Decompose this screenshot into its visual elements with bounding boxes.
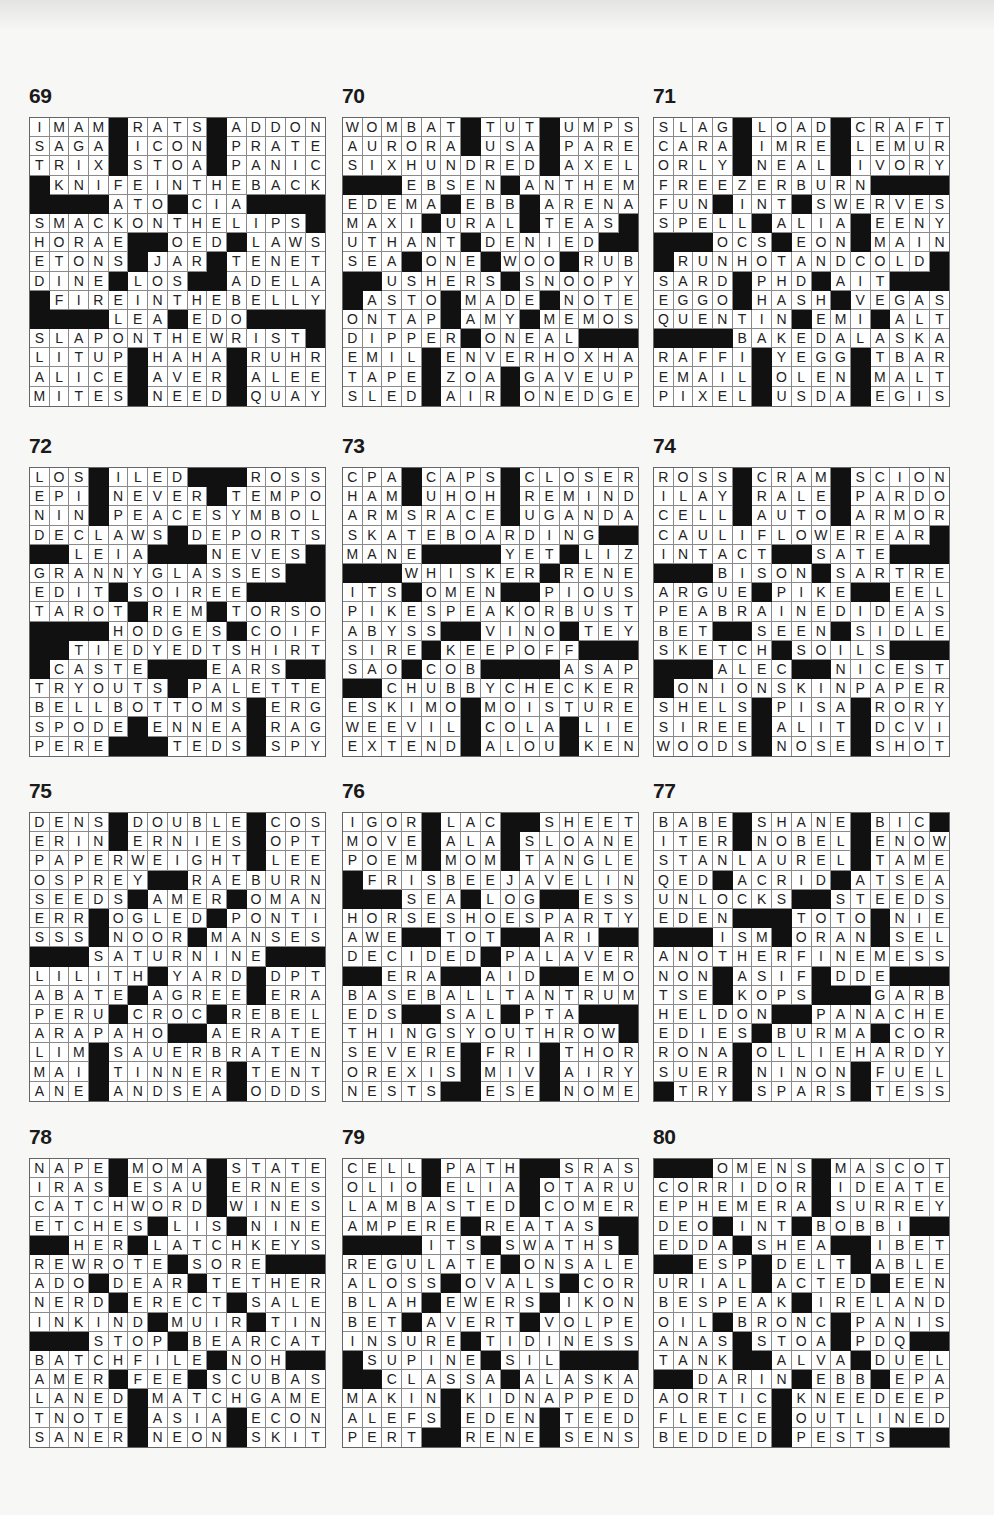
black-square: [619, 1005, 639, 1024]
letter-cell: E: [422, 909, 442, 928]
letter-cell: T: [382, 310, 402, 329]
letter-cell: D: [128, 813, 148, 832]
letter-cell: G: [148, 564, 168, 583]
black-square: [422, 387, 442, 406]
letter-cell: I: [733, 348, 753, 367]
letter-cell: L: [792, 717, 812, 736]
letter-cell: S: [693, 1293, 713, 1312]
letter-cell: E: [422, 526, 442, 545]
letter-cell: X: [579, 348, 599, 367]
letter-cell: A: [363, 986, 383, 1005]
letter-cell: P: [713, 1293, 733, 1312]
letter-cell: N: [520, 233, 540, 252]
letter-cell: S: [343, 641, 363, 660]
letter-cell: A: [851, 1159, 871, 1178]
letter-cell: L: [733, 660, 753, 679]
black-square: [441, 1408, 461, 1427]
black-square: [713, 1217, 733, 1236]
letter-cell: L: [266, 367, 286, 386]
black-square: [520, 1159, 540, 1178]
black-square: [540, 1043, 560, 1062]
black-square: [501, 832, 521, 851]
letter-cell: S: [207, 564, 227, 583]
letter-cell: A: [501, 1178, 521, 1197]
black-square: [733, 832, 753, 851]
letter-cell: E: [812, 851, 832, 870]
letter-cell: S: [168, 272, 188, 291]
letter-cell: N: [306, 1408, 326, 1427]
letter-cell: D: [520, 526, 540, 545]
letter-cell: A: [227, 195, 247, 214]
letter-cell: N: [50, 1408, 70, 1427]
letter-cell: D: [910, 487, 930, 506]
black-square: [286, 310, 306, 329]
letter-cell: I: [851, 310, 871, 329]
black-square: [306, 329, 326, 348]
letter-cell: O: [792, 1332, 812, 1351]
letter-cell: E: [343, 698, 363, 717]
letter-cell: E: [910, 1062, 930, 1081]
letter-cell: T: [560, 1178, 580, 1197]
letter-cell: M: [382, 506, 402, 525]
letter-cell: U: [266, 348, 286, 367]
letter-cell: E: [599, 947, 619, 966]
letter-cell: T: [227, 851, 247, 870]
letter-cell: A: [69, 986, 89, 1005]
letter-cell: K: [812, 583, 832, 602]
letter-cell: E: [441, 1178, 461, 1197]
letter-cell: S: [654, 641, 674, 660]
letter-cell: D: [812, 871, 832, 890]
letter-cell: N: [69, 506, 89, 525]
letter-cell: R: [560, 195, 580, 214]
letter-cell: T: [207, 641, 227, 660]
letter-cell: T: [69, 641, 89, 660]
letter-cell: I: [128, 137, 148, 156]
letter-cell: O: [713, 890, 733, 909]
letter-cell: F: [654, 176, 674, 195]
letter-cell: B: [890, 348, 910, 367]
letter-cell: E: [148, 468, 168, 487]
black-square: [930, 526, 950, 545]
letter-cell: T: [540, 214, 560, 233]
letter-cell: E: [599, 737, 619, 756]
letter-cell: G: [520, 367, 540, 386]
letter-cell: E: [501, 1217, 521, 1236]
letter-cell: E: [910, 583, 930, 602]
letter-cell: R: [109, 1236, 129, 1255]
letter-cell: T: [89, 1408, 109, 1427]
letter-cell: U: [247, 1370, 267, 1389]
black-square: [402, 1313, 422, 1332]
letter-cell: D: [343, 947, 363, 966]
letter-cell: R: [343, 1255, 363, 1274]
black-square: [772, 1005, 792, 1024]
letter-cell: E: [599, 813, 619, 832]
letter-cell: A: [772, 214, 792, 233]
black-square: [831, 137, 851, 156]
letter-cell: I: [501, 622, 521, 641]
letter-cell: S: [343, 156, 363, 175]
letter-cell: F: [792, 967, 812, 986]
letter-cell: S: [851, 468, 871, 487]
black-square: [441, 1274, 461, 1293]
letter-cell: N: [851, 928, 871, 947]
black-square: [461, 545, 481, 564]
letter-cell: O: [30, 871, 50, 890]
letter-cell: E: [363, 1428, 383, 1447]
letter-cell: L: [713, 506, 733, 525]
letter-cell: T: [247, 1274, 267, 1293]
black-square: [851, 986, 871, 1005]
letter-cell: R: [910, 986, 930, 1005]
black-square: [266, 195, 286, 214]
letter-cell: S: [599, 602, 619, 621]
letter-cell: O: [422, 291, 442, 310]
letter-cell: R: [619, 1043, 639, 1062]
black-square: [363, 272, 383, 291]
letter-cell: P: [772, 986, 792, 1005]
black-square: [792, 310, 812, 329]
letter-cell: B: [402, 118, 422, 137]
letter-cell: O: [910, 737, 930, 756]
letter-cell: D: [599, 506, 619, 525]
letter-cell: L: [733, 387, 753, 406]
black-square: [30, 291, 50, 310]
letter-cell: L: [910, 622, 930, 641]
